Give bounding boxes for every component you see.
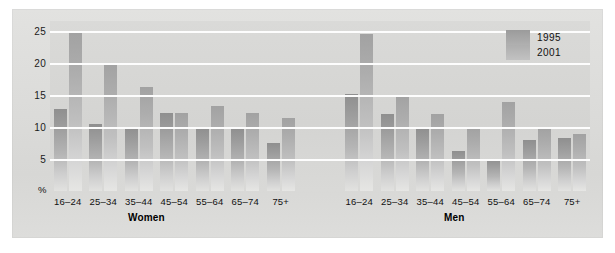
bar-women-1624-2001 <box>69 32 82 191</box>
legend-swatches <box>506 30 530 60</box>
y-axis-tick-15: 15 <box>16 89 46 100</box>
x-axis-label: 65–74 <box>519 195 555 211</box>
bar-men-2534-2001 <box>396 95 409 191</box>
bar-men-4554-1995 <box>452 151 465 191</box>
figure-plate: 510152025 % 16–2425–3435–4445–5455–6465–… <box>12 9 603 238</box>
y-axis-unit-label: % <box>38 184 46 195</box>
panel-xlabels-men: 16–2425–3435–4445–5455–6465–7475+ <box>342 195 591 211</box>
x-axis-label: 25–34 <box>377 195 413 211</box>
legend-swatch-2001 <box>506 45 530 60</box>
chart-screenshot: 510152025 % 16–2425–3435–4445–5455–6465–… <box>0 0 615 253</box>
x-axis-label: 65–74 <box>228 195 264 211</box>
bar-group <box>448 21 484 191</box>
bar-men-1624-1995 <box>345 94 358 192</box>
x-axis-label: 45–54 <box>157 195 193 211</box>
bar-women-5564-2001 <box>211 106 224 191</box>
bar-men-2534-1995 <box>381 114 394 191</box>
bar-women-2534-1995 <box>89 124 102 191</box>
bar-women-4554-1995 <box>160 113 173 191</box>
x-axis-label: 45–54 <box>448 195 484 211</box>
legend-swatch-1995 <box>506 30 530 45</box>
bar-group <box>50 21 86 191</box>
bar-women-1624-1995 <box>54 109 67 191</box>
bar-group <box>413 21 449 191</box>
x-axis-label: 35–44 <box>121 195 157 211</box>
x-axis-label: 55–64 <box>192 195 228 211</box>
gridline-10 <box>50 127 590 129</box>
legend-label-1995: 1995 <box>537 30 561 45</box>
panel-caption-men: Men <box>444 212 465 223</box>
bar-men-1624-2001 <box>360 34 373 191</box>
bar-men-75+-2001 <box>573 134 586 191</box>
bar-group <box>342 21 378 191</box>
bar-group <box>86 21 122 191</box>
panel-xlabels-women: 16–2425–3435–4445–5455–6465–7475+ <box>50 195 299 211</box>
legend: 1995 2001 <box>506 30 561 60</box>
x-axis-label: 75+ <box>555 195 591 211</box>
y-axis-tick-20: 20 <box>16 57 46 68</box>
panel-caption-women: Women <box>128 212 165 223</box>
bar-group <box>263 21 299 191</box>
bar-men-75+-1995 <box>558 138 571 191</box>
x-axis-label: 55–64 <box>484 195 520 211</box>
legend-labels: 1995 2001 <box>537 30 561 60</box>
gridline-20 <box>50 63 590 65</box>
bar-women-75+-2001 <box>282 118 295 191</box>
bar-men-3544-2001 <box>431 114 444 191</box>
bar-group <box>377 21 413 191</box>
panel-gap <box>299 21 342 191</box>
x-axis-label: 16–24 <box>342 195 378 211</box>
bar-women-3544-2001 <box>140 87 153 191</box>
x-axis-label: 35–44 <box>413 195 449 211</box>
bar-group <box>228 21 264 191</box>
bar-women-4554-2001 <box>175 113 188 191</box>
panel-women <box>50 21 299 191</box>
bar-women-6574-2001 <box>246 113 259 191</box>
panel-gap-label <box>299 195 342 211</box>
gridline-15 <box>50 95 590 97</box>
y-axis-tick-25: 25 <box>16 25 46 36</box>
bar-group <box>157 21 193 191</box>
bar-men-5564-1995 <box>487 159 500 191</box>
y-axis: 510152025 <box>12 21 46 191</box>
bar-group <box>121 21 157 191</box>
bar-women-75+-1995 <box>267 143 280 191</box>
x-axis-labels: 16–2425–3435–4445–5455–6465–7475+16–2425… <box>50 195 590 211</box>
bar-group <box>192 21 228 191</box>
y-axis-tick-5: 5 <box>16 153 46 164</box>
bar-men-6574-1995 <box>523 140 536 191</box>
bar-men-5564-2001 <box>502 102 515 191</box>
x-axis-label: 16–24 <box>50 195 86 211</box>
x-axis-label: 25–34 <box>86 195 122 211</box>
y-axis-tick-10: 10 <box>16 121 46 132</box>
x-axis-label: 75+ <box>263 195 299 211</box>
legend-label-2001: 2001 <box>537 45 561 60</box>
gridline-5 <box>50 159 590 161</box>
